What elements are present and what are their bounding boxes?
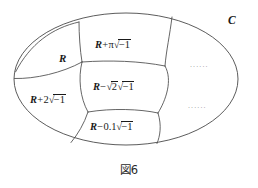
radicand-value: −1 bbox=[53, 94, 65, 106]
radicand-value: −1 bbox=[122, 81, 134, 93]
radicand-value: −1 bbox=[118, 39, 130, 51]
figure-caption: 図6 bbox=[0, 161, 258, 177]
radicand-value: −1 bbox=[121, 121, 133, 133]
radicand-number: 1 bbox=[125, 39, 130, 50]
figure-container: C R R+π√−1 R−√2√−1 R−0.1√−1 R+2√−1 .....… bbox=[0, 0, 258, 188]
radical-sign-group: √−1 bbox=[49, 94, 66, 106]
cell-base-R: R bbox=[30, 94, 37, 105]
cell-operator: + bbox=[37, 94, 44, 105]
cell-label-coset-2: R+2√−1 bbox=[30, 94, 66, 106]
radicand-number: 1 bbox=[127, 121, 132, 132]
ellipsis-mark-lower: ...... bbox=[188, 101, 207, 110]
cell-base-R: R bbox=[93, 81, 100, 92]
cell-base-R: R bbox=[95, 39, 102, 50]
cell-operator: − bbox=[97, 121, 104, 132]
cell-operator: + bbox=[102, 39, 109, 50]
coefficient-radical-group: √2 bbox=[107, 81, 118, 93]
cell-label-coset-0-1: R−0.1√−1 bbox=[90, 121, 133, 133]
radicand-number: 1 bbox=[60, 94, 65, 105]
ellipsis-mark-upper: ...... bbox=[190, 60, 209, 69]
cell-label-coset-sqrt2: R−√2√−1 bbox=[93, 81, 134, 93]
cell-coefficient: 0.1 bbox=[104, 121, 117, 132]
radical-sign-group: √−1 bbox=[114, 39, 131, 51]
ambient-set-label-C: C bbox=[228, 15, 236, 27]
radical-sign-group: √−1 bbox=[116, 121, 133, 133]
subgroup-label-R: R bbox=[59, 53, 66, 64]
radical-sign-group: √−1 bbox=[118, 81, 135, 93]
cell-operator: − bbox=[100, 81, 107, 92]
radicand-number: 1 bbox=[129, 81, 134, 92]
cell-base-R: R bbox=[90, 121, 97, 132]
cell-label-coset-pi: R+π√−1 bbox=[95, 39, 131, 51]
